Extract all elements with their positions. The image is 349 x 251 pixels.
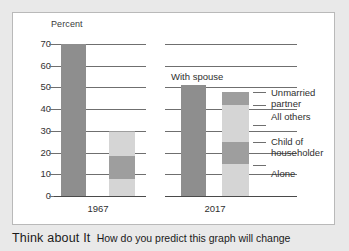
y-axis-title: Percent (51, 19, 83, 29)
gridline-right-70 (165, 44, 297, 45)
bar-2017-with-spouse (181, 85, 206, 196)
chart-panel: Percent 0 10 20 30 40 50 60 70 (12, 12, 335, 225)
legend-tick-all-others (253, 105, 266, 106)
y-tick-40: 40 (29, 104, 51, 114)
gridline-left-0 (54, 196, 146, 197)
seg-2017-all-others (222, 105, 249, 142)
y-tick-20: 20 (29, 148, 51, 158)
caption-bar: Think about It How do you predict this g… (12, 231, 349, 245)
gridline-right-60 (165, 66, 297, 67)
seg-1967-alone (109, 179, 135, 196)
legend-tick-all-others-lower (253, 125, 266, 126)
y-tick-10: 10 (29, 169, 51, 179)
y-tick-60: 60 (29, 61, 51, 71)
annotation-with-spouse: With spouse (171, 71, 223, 82)
bar-2017-other (222, 92, 249, 196)
gridline-right-0 (165, 196, 297, 197)
y-axis-tick-labels: 0 10 20 30 40 50 60 70 (27, 13, 51, 224)
y-tick-0: 0 (29, 191, 51, 201)
legend-label-all-others: All others (271, 112, 311, 123)
legend-tick-alone (253, 165, 266, 166)
y-tick-30: 30 (29, 126, 51, 136)
group-label-1967: 1967 (61, 203, 135, 214)
plot-area: Percent 0 10 20 30 40 50 60 70 (13, 13, 334, 224)
seg-1967-all-others (109, 132, 135, 156)
figure-root: Percent 0 10 20 30 40 50 60 70 (0, 0, 349, 251)
group-label-2017: 2017 (181, 203, 249, 214)
legend-tick-child-of-householder (253, 142, 266, 143)
legend-label-unmarried-partner: Unmarried partner (271, 88, 315, 109)
y-tick-70: 70 (29, 39, 51, 49)
legend-label-child-of-householder: Child of householder (271, 137, 323, 158)
seg-1967-child-of-householder (109, 156, 135, 179)
legend-tick-unmarried-partner (253, 92, 266, 93)
seg-2017-child-of-householder (222, 142, 249, 164)
bar-1967-other (109, 131, 135, 196)
seg-2017-unmarried-partner (222, 92, 249, 105)
caption-heading: Think about It (12, 231, 91, 245)
bar-1967-with-spouse (61, 44, 86, 196)
y-tick-50: 50 (29, 82, 51, 92)
seg-2017-alone (222, 164, 249, 196)
caption-text: How do you predict this graph will chang… (97, 232, 291, 244)
legend-label-alone: Alone (271, 169, 295, 180)
